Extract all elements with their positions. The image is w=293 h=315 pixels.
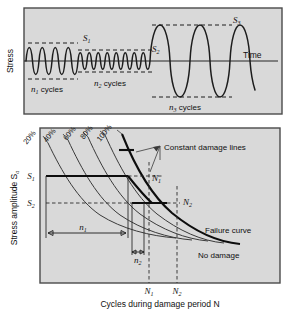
label-N2-axis: N2 xyxy=(171,286,181,297)
label-failure-curve: Failure curve xyxy=(205,226,252,235)
bottom-y-axis-label: Stress amplitude Sa xyxy=(9,171,20,245)
top-x-axis-label: Time xyxy=(243,50,262,60)
label-N1-axis: N1 xyxy=(143,286,153,297)
label-S2-bottom: S2 xyxy=(27,198,35,209)
bottom-panel: 20% 40% 60% 80% 100% n1 xyxy=(9,122,280,309)
label-S1-bottom: S1 xyxy=(27,171,35,182)
label-no-damage: No damage xyxy=(198,251,240,260)
top-y-axis-label: Stress xyxy=(5,49,15,73)
damage-label-20: 20% xyxy=(21,128,38,146)
figure-container: Stress Time S1 S2 S3 n1 cycles n2 cycles… xyxy=(0,0,293,315)
bottom-x-axis-label: Cycles during damage period N xyxy=(100,299,219,309)
top-panel: Stress Time S1 S2 S3 n1 cycles n2 cycles… xyxy=(5,8,282,114)
label-constant-damage-lines: Constant damage lines xyxy=(164,143,246,152)
